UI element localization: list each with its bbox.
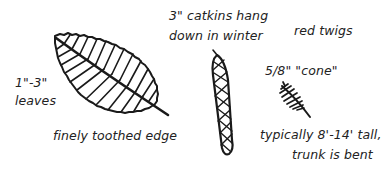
catkins-label: 3" catkins hang xyxy=(169,9,268,23)
catkins-label-2: down in winter xyxy=(169,29,263,43)
alder-id-diagram: 1"-3" leaves finely toothed edge 3" catk… xyxy=(0,0,385,172)
leaf-size-label-2: leaves xyxy=(15,94,56,108)
height-label: typically 8'-14' tall, xyxy=(260,128,381,142)
cone-label: 5/8" "cone" xyxy=(265,64,338,78)
trunk-label: trunk is bent xyxy=(292,148,373,162)
catkin-illustration xyxy=(213,50,233,154)
leaf-size-label: 1"-3" xyxy=(15,76,47,90)
leaf-illustration xyxy=(55,33,168,115)
leaf-edge-label: finely toothed edge xyxy=(53,129,177,143)
cone-illustration xyxy=(280,82,310,117)
twigs-label: red twigs xyxy=(294,24,353,38)
